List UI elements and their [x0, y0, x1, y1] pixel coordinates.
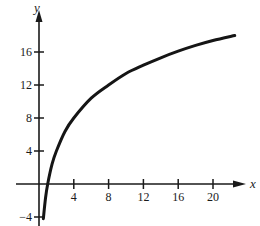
- y-tick-label: 4: [26, 144, 32, 158]
- x-tick-label: 16: [172, 190, 184, 204]
- x-tick-label: 20: [207, 190, 219, 204]
- y-ticks: −4481216: [19, 45, 44, 224]
- x-tick-label: 12: [137, 190, 149, 204]
- y-axis-label: y: [32, 0, 40, 15]
- x-tick-label: 4: [71, 190, 77, 204]
- x-axis: [16, 181, 246, 188]
- chart: y x 48121620 −4481216: [0, 0, 260, 226]
- y-tick-label: 16: [20, 45, 32, 59]
- x-axis-arrow-icon: [233, 181, 246, 188]
- y-tick-label: 12: [20, 78, 32, 92]
- x-tick-label: 8: [106, 190, 112, 204]
- y-tick-label: −4: [19, 210, 32, 224]
- y-tick-label: 8: [26, 111, 32, 125]
- x-axis-label: x: [249, 176, 256, 191]
- x-ticks: 48121620: [71, 179, 219, 204]
